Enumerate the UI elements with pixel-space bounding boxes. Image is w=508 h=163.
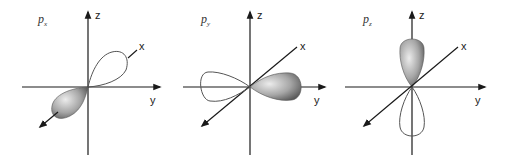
- x-axis-front: [40, 112, 58, 127]
- p-orbitals-diagram: px z x y py z x y pz z x y: [0, 0, 508, 163]
- x-axis-back: [128, 50, 137, 58]
- panel-py: py z x y: [183, 9, 325, 155]
- y-axis-label: y: [150, 94, 156, 106]
- outline-lobe: [88, 51, 127, 87]
- panel-pz: pz z x y: [345, 9, 485, 155]
- orbital-label: py: [200, 12, 211, 28]
- filled-lobe: [250, 73, 301, 101]
- orbital-label: pz: [362, 12, 372, 28]
- z-axis-label: z: [419, 9, 425, 21]
- z-axis-label: z: [95, 9, 101, 21]
- z-axis-label: z: [257, 9, 263, 21]
- x-axis-label: x: [139, 40, 145, 52]
- x-axis-label: x: [461, 40, 467, 52]
- y-axis-label: y: [475, 94, 481, 106]
- x-axis-label: x: [300, 40, 306, 52]
- filled-lobe: [400, 39, 424, 87]
- orbital-label: px: [37, 12, 48, 28]
- filled-lobe: [52, 87, 88, 118]
- y-axis-label: y: [314, 94, 320, 106]
- panel-px: px z x y: [22, 9, 160, 155]
